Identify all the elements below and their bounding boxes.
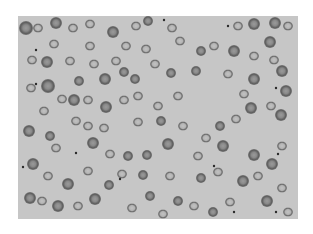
blood-smear-micrograph <box>18 16 298 219</box>
cells-layer <box>18 16 298 219</box>
